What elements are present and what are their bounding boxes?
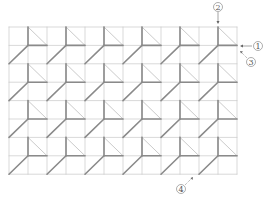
callout-markers: 1 2 3 4 bbox=[177, 3, 263, 195]
marker-2: 2 bbox=[214, 3, 223, 25]
marker-4: 4 bbox=[177, 177, 194, 194]
svg-text:2: 2 bbox=[215, 3, 220, 12]
marker-1: 1 bbox=[240, 42, 263, 52]
svg-text:1: 1 bbox=[255, 42, 260, 51]
tile-pattern-diagram: 1 2 3 4 bbox=[0, 0, 265, 199]
marker-3: 3 bbox=[240, 51, 256, 67]
svg-text:4: 4 bbox=[178, 185, 183, 194]
svg-text:3: 3 bbox=[248, 58, 253, 67]
